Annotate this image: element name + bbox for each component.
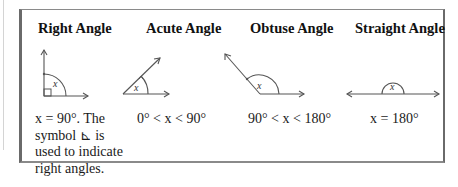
description-line: symbol ⊾ is <box>35 128 123 145</box>
right-angle-description: x = 90°. The symbol ⊾ is used to indicat… <box>35 111 123 177</box>
page-edge-line <box>3 0 4 150</box>
angle-variable-label: x <box>133 82 139 93</box>
acute-angle-description: 0° < x < 90° <box>137 111 206 128</box>
angle-variable-label: x <box>52 78 58 89</box>
angle-types-box: Right Angle x x = 90°. The symbol ⊾ is u… <box>19 9 445 163</box>
straight-angle-title: Straight Angle <box>355 20 445 37</box>
description-line: right angles. <box>35 161 123 178</box>
right-angle-diagram: x <box>36 44 96 104</box>
straight-angle-diagram: x <box>343 68 443 98</box>
obtuse-angle-title: Obtuse Angle <box>250 20 333 37</box>
acute-angle-diagram: x <box>119 44 189 104</box>
obtuse-angle-diagram: x <box>217 44 307 104</box>
obtuse-angle-description: 90° < x < 180° <box>248 111 331 128</box>
acute-angle-title: Acute Angle <box>146 20 221 37</box>
right-angle-title: Right Angle <box>38 20 112 37</box>
angle-variable-label: x <box>389 81 395 92</box>
description-line: used to indicate <box>35 144 123 161</box>
description-line: x = 90°. The <box>35 111 123 128</box>
angle-variable-label: x <box>256 80 262 91</box>
straight-angle-description: x = 180° <box>370 111 419 128</box>
